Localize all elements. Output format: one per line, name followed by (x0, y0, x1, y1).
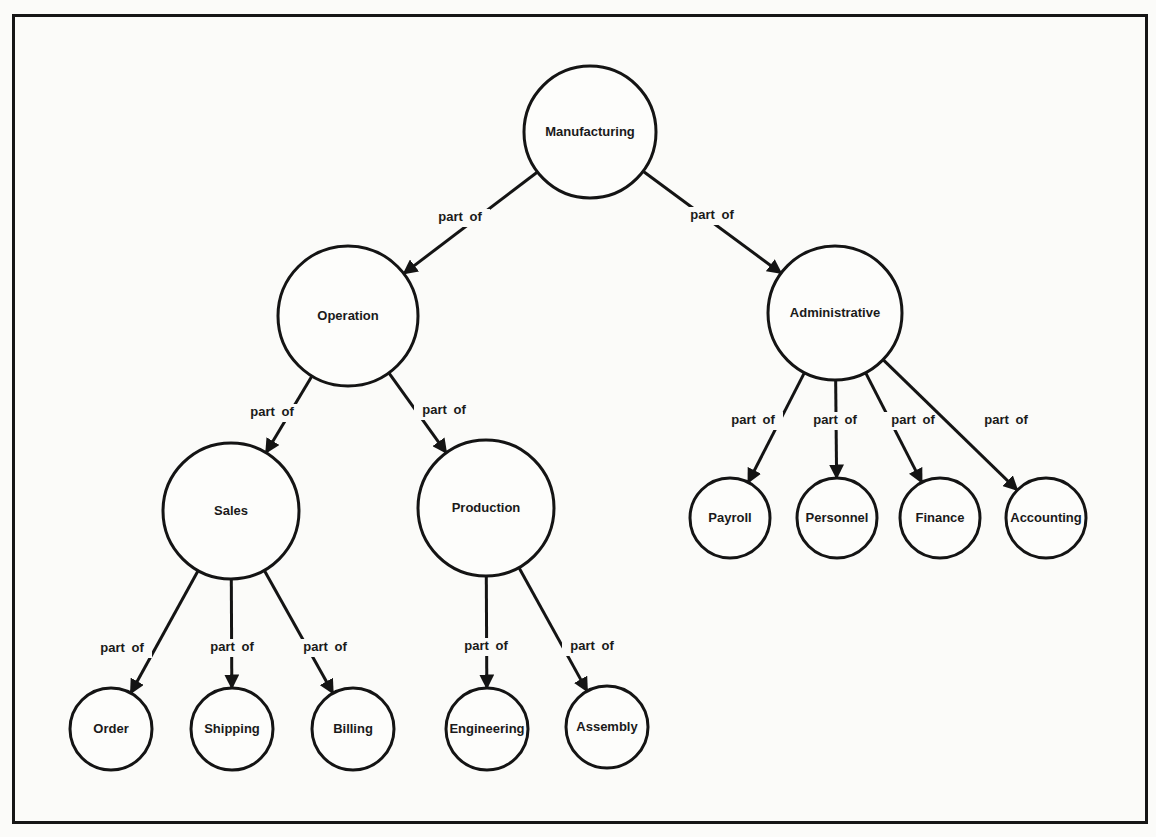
edge-label: part of (891, 412, 935, 427)
node-payroll: Payroll (690, 478, 770, 558)
edge-operation-sales: part of (242, 376, 312, 453)
node-operation: Operation (278, 246, 418, 386)
node-shipping: Shipping (191, 688, 273, 770)
edge-production-assembly: part of (519, 568, 622, 692)
edge-sales-shipping: part of (202, 579, 262, 688)
edge-sales-order: part of (92, 571, 198, 694)
node-engineering: Engineering (446, 688, 528, 770)
node-sales: Sales (163, 443, 299, 579)
arrow-icon (486, 576, 487, 688)
node-label: Personnel (806, 510, 869, 525)
edge-production-engineering: part of (456, 576, 516, 688)
node-manufacturing: Manufacturing (524, 66, 656, 198)
edge-label: part of (984, 412, 1028, 427)
arrow-icon (519, 568, 587, 692)
node-label: Sales (214, 503, 248, 518)
node-order: Order (70, 688, 152, 770)
edge-administrative-payroll: part of (723, 373, 804, 483)
edge-label: part of (250, 404, 294, 419)
edge-manufacturing-operation: part of (404, 172, 538, 274)
edge-administrative-personnel: part of (805, 380, 865, 478)
edges-layer: part ofpart ofpart ofpart ofpart ofpart … (92, 171, 1036, 693)
node-label: Shipping (204, 721, 260, 736)
node-billing: Billing (312, 688, 394, 770)
node-label: Production (452, 500, 521, 515)
edge-label: part of (813, 412, 857, 427)
hierarchy-diagram: part ofpart ofpart ofpart ofpart ofpart … (0, 0, 1156, 837)
edge-sales-billing: part of (264, 570, 355, 693)
arrow-icon (264, 570, 333, 693)
node-label: Order (93, 721, 128, 736)
edge-label: part of (422, 402, 466, 417)
edge-label: part of (570, 638, 614, 653)
edge-label: part of (438, 209, 482, 224)
node-label: Payroll (708, 510, 751, 525)
arrow-icon (131, 571, 198, 694)
edge-label: part of (303, 639, 347, 654)
node-production: Production (418, 440, 554, 576)
edge-label: part of (464, 638, 508, 653)
node-administrative: Administrative (768, 246, 902, 380)
node-assembly: Assembly (566, 686, 648, 768)
node-label: Billing (333, 721, 373, 736)
edge-manufacturing-administrative: part of (643, 171, 781, 273)
edge-operation-production: part of (389, 373, 474, 453)
edge-label: part of (731, 412, 775, 427)
node-label: Administrative (790, 305, 880, 320)
node-personnel: Personnel (797, 478, 877, 558)
edge-administrative-finance: part of (866, 373, 943, 483)
node-label: Engineering (449, 721, 524, 736)
node-label: Operation (317, 308, 378, 323)
node-label: Finance (915, 510, 964, 525)
arrow-icon (231, 579, 232, 688)
node-label: Manufacturing (545, 124, 635, 139)
edge-label: part of (210, 639, 254, 654)
node-finance: Finance (900, 478, 980, 558)
node-label: Assembly (576, 719, 638, 734)
edge-label: part of (100, 640, 144, 655)
node-accounting: Accounting (1006, 478, 1086, 558)
edge-label: part of (690, 207, 734, 222)
node-label: Accounting (1010, 510, 1082, 525)
